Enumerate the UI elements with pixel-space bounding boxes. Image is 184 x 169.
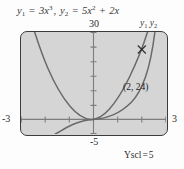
y2-subscript: 2 xyxy=(65,10,69,18)
xmax-label: 3 xyxy=(172,113,177,124)
y1-subscript: 1 xyxy=(22,10,26,18)
equals-sign-1: = xyxy=(28,5,36,16)
y2-term-2: 2x xyxy=(109,5,119,16)
ymin-label: -5 xyxy=(90,136,98,147)
graphing-calculator-figure: y1 = 3x3, y2 = 5x2 + 2x 30 y1 y2 -3 3 -5 xyxy=(0,0,184,169)
comma-separator: , xyxy=(53,5,58,16)
equation-caption: y1 = 3x3, y2 = 5x2 + 2x xyxy=(17,4,119,18)
yscl-label: Yscl xyxy=(124,150,141,160)
curve-label-y2-subscript: 2 xyxy=(154,22,157,29)
yscl-value: 5 xyxy=(149,150,154,160)
yscl-equals: = xyxy=(141,150,148,160)
calculator-screen: (2, 24) xyxy=(20,31,168,136)
equals-sign-2: = xyxy=(71,5,79,16)
curve-label-y1-subscript: 1 xyxy=(144,22,147,29)
curve-name-labels: y1 y2 xyxy=(140,18,157,29)
y1-expression: 3x xyxy=(39,5,49,16)
y2-exponent: 2 xyxy=(92,4,96,12)
yscl-note: Yscl=5 xyxy=(124,150,154,160)
point-coordinate-label: (2, 24) xyxy=(123,82,148,92)
ymax-label: 30 xyxy=(89,18,99,29)
y2-term-1: 5x xyxy=(82,5,92,16)
plus-sign: + xyxy=(98,5,106,16)
xmin-label: -3 xyxy=(2,113,10,124)
